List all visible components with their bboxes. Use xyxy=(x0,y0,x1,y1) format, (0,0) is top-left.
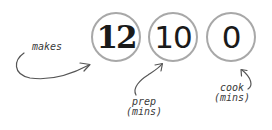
servings-value: 12 xyxy=(96,22,135,53)
recipe-stats: 12 10 0 makes prep (mins) cook (mins) xyxy=(0,0,272,130)
prep-arrow-icon xyxy=(135,64,162,95)
prep-time-value: 10 xyxy=(154,22,191,53)
makes-label: makes xyxy=(32,42,62,52)
prep-label-line2: (mins) xyxy=(124,107,164,117)
servings-badge: 12 xyxy=(91,12,141,62)
makes-arrow-icon xyxy=(16,53,89,79)
cook-label-line2: (mins) xyxy=(214,93,250,103)
prep-label: prep (mins) xyxy=(124,97,164,117)
cook-time-badge: 0 xyxy=(206,12,256,62)
cook-label: cook (mins) xyxy=(214,83,250,103)
prep-time-badge: 10 xyxy=(148,12,198,62)
cook-time-value: 0 xyxy=(222,22,241,53)
